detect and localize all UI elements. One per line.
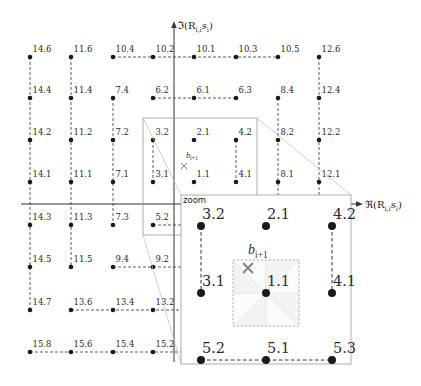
lattice-point-label: 11.2 xyxy=(74,127,93,137)
lattice-point-label: 13.6 xyxy=(74,297,93,307)
inset-point-dot xyxy=(262,222,270,230)
lattice-point-dot xyxy=(317,180,322,185)
lattice-point-label: 15.2 xyxy=(156,339,175,349)
lattice-point-label: 14.1 xyxy=(33,169,52,179)
lattice-point-dot xyxy=(28,180,33,185)
lattice-point-dot xyxy=(111,223,116,228)
lattice-point-label: 13.2 xyxy=(156,297,175,307)
lattice-point-label: 11.5 xyxy=(74,254,93,264)
lattice-point-dot xyxy=(69,350,74,355)
lattice-point-dot xyxy=(276,138,281,143)
lattice-point-dot xyxy=(111,96,116,101)
lattice-point-dot xyxy=(192,55,197,60)
lattice-point-label: 4.2 xyxy=(239,127,253,137)
lattice-point-label: 9.4 xyxy=(116,254,130,264)
lattice-point-dot xyxy=(28,223,33,228)
lattice-point-dot xyxy=(234,138,239,143)
lattice-point-dot xyxy=(151,223,156,228)
lattice-point-dot xyxy=(151,55,156,60)
lattice-point-dot xyxy=(69,223,74,228)
inset-point-dot xyxy=(262,289,270,297)
estimate-subscript: i+1 xyxy=(255,250,268,260)
inset-point-dot xyxy=(197,222,205,230)
lattice-point-dot xyxy=(192,96,197,101)
lattice-point-label: 8.1 xyxy=(281,169,295,179)
inset-point-label: 5.3 xyxy=(333,340,356,356)
inset-point-label: 4.1 xyxy=(333,273,356,289)
inset-point-dot xyxy=(197,289,205,297)
arrow-up-icon xyxy=(171,21,176,28)
lattice-point-label: 15.4 xyxy=(116,339,135,349)
lattice-point-label: 10.2 xyxy=(156,44,175,54)
real-axis-label: ℜ(Ri,isi) xyxy=(365,199,402,213)
lattice-point-dot xyxy=(69,55,74,60)
lattice-point-label: 8.4 xyxy=(281,85,295,95)
lattice-point-dot xyxy=(111,350,116,355)
inset-point-dot xyxy=(328,356,336,364)
lattice-point-label: 14.5 xyxy=(33,254,52,264)
lattice-point-dot xyxy=(192,180,197,185)
lattice-point-dot xyxy=(151,96,156,101)
lattice-point-label: 11.6 xyxy=(74,44,93,54)
inset-point-label: 2.1 xyxy=(267,206,290,222)
lattice-point-label: 15.6 xyxy=(74,339,93,349)
lattice-zoom-figure: 14.611.610.410.210.110.310.512.614.411.4… xyxy=(0,0,421,386)
lattice-point-label: 6.1 xyxy=(197,85,211,95)
lattice-point-label: 7.4 xyxy=(116,85,130,95)
inset-point-label: 3.2 xyxy=(202,206,225,222)
inset-point-dot xyxy=(328,289,336,297)
lattice-point-label: 12.4 xyxy=(322,85,341,95)
lattice-point-dot xyxy=(111,138,116,143)
lattice-point-dot xyxy=(151,350,156,355)
lattice-point-label: 12.2 xyxy=(322,127,341,137)
lattice-point-label: 12.6 xyxy=(322,44,341,54)
lattice-point-dot xyxy=(28,350,33,355)
lattice-point-dot xyxy=(28,138,33,143)
lattice-point-label: 11.4 xyxy=(74,85,93,95)
lattice-point-label: 11.3 xyxy=(74,212,93,222)
lattice-point-label: 3.1 xyxy=(156,169,170,179)
lattice-point-label: 10.4 xyxy=(116,44,135,54)
zoom-inset-title: zoom xyxy=(183,195,206,205)
lattice-point-label: 1.1 xyxy=(197,169,211,179)
imaginary-axis-label: ℑ(Ri,isi) xyxy=(177,20,213,34)
lattice-point-dot xyxy=(317,138,322,143)
inset-point-label: 1.1 xyxy=(267,273,290,289)
axis-label-symbol: ℑ(R xyxy=(177,20,196,31)
estimate-subscript: i+1 xyxy=(190,155,198,161)
lattice-point-label: 2.1 xyxy=(197,127,211,137)
inset-point-dot xyxy=(197,356,205,364)
inset-point-label: 5.2 xyxy=(202,340,225,356)
inset-point-label: 4.2 xyxy=(333,206,356,222)
lattice-point-label: 10.5 xyxy=(281,44,300,54)
lattice-point-dot xyxy=(28,55,33,60)
lattice-point-dot xyxy=(28,265,33,270)
lattice-point-dot xyxy=(111,180,116,185)
lattice-point-label: 9.2 xyxy=(156,254,170,264)
lattice-point-label: 5.2 xyxy=(156,212,170,222)
lattice-point-dot xyxy=(234,96,239,101)
lattice-point-dot xyxy=(69,308,74,313)
lattice-point-dot xyxy=(276,96,281,101)
lattice-point-dot xyxy=(69,265,74,270)
zoom-inset: zoom3.22.14.23.11.14.15.25.15.3bi+1 xyxy=(181,195,356,364)
lattice-point-label: 14.3 xyxy=(33,212,52,222)
lattice-point-label: 7.3 xyxy=(116,212,130,222)
estimate-symbol: b xyxy=(248,242,255,257)
lattice-point-label: 11.1 xyxy=(74,169,93,179)
lattice-point-dot xyxy=(111,308,116,313)
lattice-point-label: 10.1 xyxy=(197,44,216,54)
inset-point-dot xyxy=(328,222,336,230)
lattice-point-dot xyxy=(151,308,156,313)
lattice-point-dot xyxy=(234,55,239,60)
lattice-point-dot xyxy=(317,96,322,101)
lattice-point-label: 14.7 xyxy=(33,297,52,307)
lattice-point-label: 4.1 xyxy=(239,169,253,179)
lattice-point-dot xyxy=(111,265,116,270)
lattice-point-label: 7.1 xyxy=(116,169,130,179)
lattice-point-dot xyxy=(317,55,322,60)
axis-label-close: ) xyxy=(398,199,402,210)
lattice-point-dot xyxy=(69,180,74,185)
lattice-point-dot xyxy=(151,180,156,185)
lattice-point-dot xyxy=(234,180,239,185)
